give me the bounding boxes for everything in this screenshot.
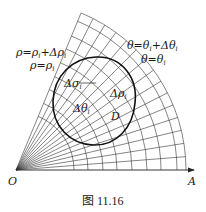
polar-arc bbox=[81, 13, 186, 170]
label-region-D: D bbox=[111, 111, 120, 122]
figure-caption: 图 11.16 bbox=[82, 191, 124, 209]
label-axis-A: A bbox=[188, 176, 196, 187]
label-theta-outer: θ=θi+Δθi bbox=[127, 40, 178, 53]
label-delta-sigma: Δσi bbox=[64, 78, 82, 91]
polar-ray bbox=[16, 117, 178, 170]
label-origin-O: O bbox=[8, 176, 17, 187]
polar-partition-figure: ρ=ρi+Δρi ρ=ρi θ=θi+Δθi θ=θi Δσi Δρi Δθi … bbox=[0, 0, 206, 212]
polar-ray bbox=[16, 19, 93, 170]
polar-rays bbox=[16, 13, 185, 170]
label-rho-inner: ρ=ρi bbox=[30, 60, 54, 73]
polar-grid-diagram bbox=[0, 0, 206, 212]
label-theta-inner: θ=θi bbox=[141, 54, 166, 67]
label-delta-theta: Δθi bbox=[73, 103, 90, 116]
polar-ray bbox=[16, 93, 167, 170]
label-delta-rho: Δρi bbox=[110, 88, 127, 101]
polar-ray bbox=[16, 157, 185, 170]
